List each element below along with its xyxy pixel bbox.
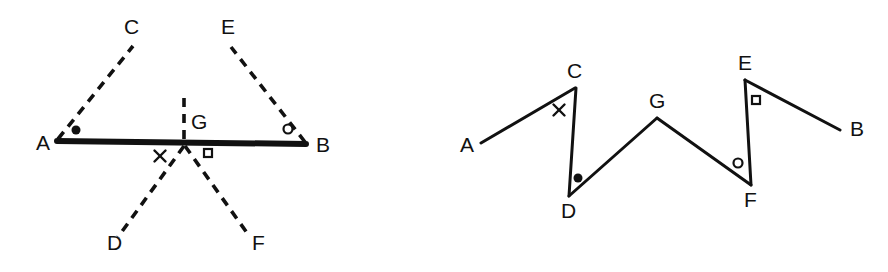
vertex-label-left-panel-F: F — [252, 231, 265, 254]
vertex-label-right-panel-E: E — [738, 51, 752, 74]
zigzag-path: ABCDEFG — [460, 51, 864, 222]
dashed-segment-GD — [118, 146, 184, 237]
marker-x-C-cross-icon — [554, 105, 565, 116]
vertex-label-left-panel-E: E — [221, 15, 235, 38]
vertex-label-right-panel-C: C — [567, 59, 582, 82]
figure-canvas: ABCDEFGABCDEFG — [0, 0, 888, 272]
vertex-label-left-panel-C: C — [124, 15, 139, 38]
vertex-label-right-panel-F: F — [744, 188, 757, 211]
marker-square-E-open-square-icon — [752, 96, 760, 104]
segment-GF — [657, 118, 751, 185]
segment-AB — [57, 141, 306, 144]
vertex-label-left-panel-B: B — [316, 133, 330, 156]
vertex-label-left-panel-G: G — [191, 110, 207, 133]
marker-dot-A-filled-circle-icon — [72, 126, 81, 135]
vertex-label-left-panel-A: A — [36, 131, 50, 154]
segment-DG — [569, 118, 657, 196]
dashed-segment-GF — [185, 146, 250, 237]
vertex-label-right-panel-G: G — [649, 89, 665, 112]
marker-square-G-right-open-square-icon — [204, 149, 212, 157]
marker-x-G-left-cross-icon — [155, 151, 166, 162]
dashed-segment-BE — [231, 47, 305, 142]
geometry-figure: ABCDEFGABCDEFG — [0, 0, 888, 272]
marker-dot-D-filled-circle-icon — [574, 174, 583, 183]
vertex-label-left-panel-D: D — [107, 231, 122, 254]
vertex-label-right-panel-B: B — [850, 117, 864, 140]
marker-circle-B-open-circle-icon — [284, 125, 293, 134]
straight-segment-with-rays: ABCDEFG — [36, 15, 330, 254]
segment-FE — [745, 80, 751, 185]
vertex-label-right-panel-A: A — [460, 133, 474, 156]
vertex-label-right-panel-D: D — [561, 199, 576, 222]
segment-AC — [481, 88, 575, 143]
dashed-segment-AC — [58, 46, 133, 139]
marker-circle-F-open-circle-icon — [734, 159, 743, 168]
